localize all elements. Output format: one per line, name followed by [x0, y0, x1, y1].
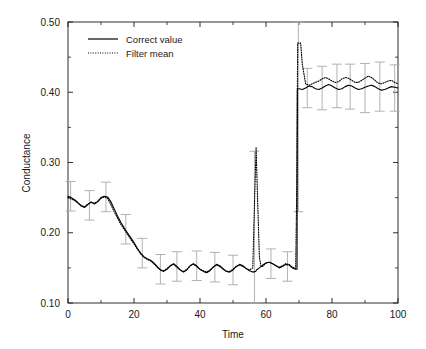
x-tick-label: 0	[65, 309, 71, 320]
y-tick-label: 0.20	[41, 227, 61, 238]
x-tick-label: 20	[128, 309, 140, 320]
legend-label: Filter mean	[126, 48, 174, 59]
x-tick-label: 60	[260, 309, 272, 320]
y-tick-label: 0.30	[41, 157, 61, 168]
x-axis-title: Time	[222, 329, 244, 340]
conductance-time-plot: 0204060801000.100.200.300.400.50 Correct…	[0, 0, 426, 349]
x-tick-label: 40	[194, 309, 206, 320]
x-tick-label: 80	[326, 309, 338, 320]
legend-label: Correct value	[126, 34, 183, 45]
y-tick-label: 0.50	[41, 17, 61, 28]
y-tick-label: 0.10	[41, 298, 61, 309]
chart-figure: 0204060801000.100.200.300.400.50 Correct…	[0, 0, 426, 349]
x-tick-label: 100	[390, 309, 407, 320]
y-tick-label: 0.40	[41, 87, 61, 98]
y-axis-title: Conductance	[21, 133, 32, 192]
plot-background	[0, 0, 426, 349]
